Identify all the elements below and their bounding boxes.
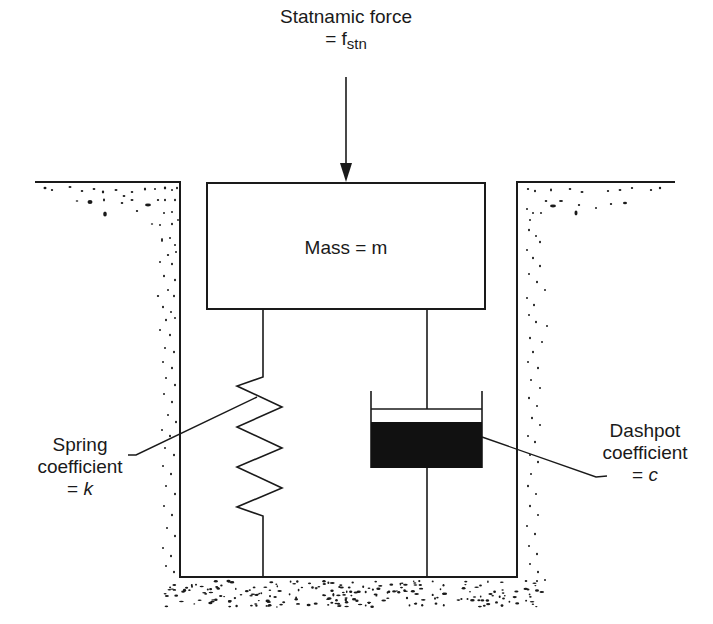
mass-label: Mass = m [207,237,485,259]
dashpot [371,309,482,577]
dashpot-label: Dashpot coefficient = c [595,420,695,486]
dashpot-leader-line [482,437,607,477]
dashpot-label-line1: Dashpot [595,420,695,442]
dashpot-label-eq: = c [595,464,695,486]
dashpot-label-line2: coefficient [595,442,695,464]
force-label-eq: = fstn [246,28,446,50]
force-arrow [340,77,352,182]
force-label: Statnamic force = fstn [246,6,446,50]
spring-label-line2: coefficient [30,456,130,478]
spring-label-eq: = k [30,478,130,500]
spring-label-line1: Spring [30,434,130,456]
soil-bottom-texture [164,580,544,608]
force-label-line1: Statnamic force [246,6,446,28]
spring [237,309,282,577]
spring-label: Spring coefficient = k [30,434,130,500]
spring-dashpot-diagram [0,0,713,624]
